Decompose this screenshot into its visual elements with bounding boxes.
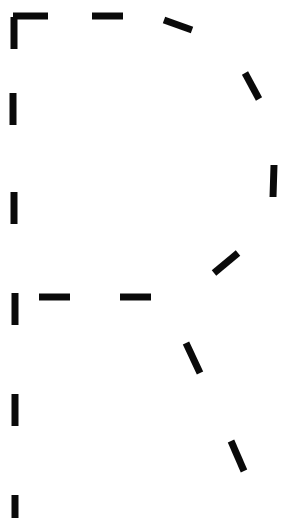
- dash-segment-bowl-2: [245, 73, 259, 99]
- dash-segment-leg-1: [186, 343, 200, 373]
- dash-segment-bowl-4: [214, 253, 238, 273]
- dashed-letter-r-glyph: [0, 0, 290, 518]
- dash-segment-bowl-3: [273, 165, 274, 197]
- letter-r-tracing-canvas: [0, 0, 290, 518]
- dash-segment-bowl-1: [164, 20, 192, 30]
- dash-segment-leg-2: [231, 441, 244, 471]
